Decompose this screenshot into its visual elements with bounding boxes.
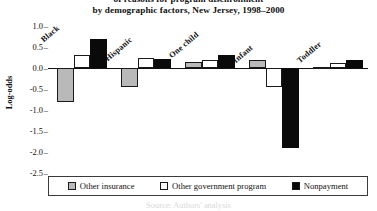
x-axis-category-label: One child	[167, 30, 200, 60]
bar	[90, 39, 107, 68]
bar	[74, 55, 91, 68]
legend-swatch-icon-other-government-program	[160, 182, 168, 190]
y-axis-tick-label: 0.0	[33, 64, 43, 73]
y-axis-tick: 1.0 –	[2, 22, 48, 31]
y-axis-tick: -1.5 –	[2, 127, 48, 136]
y-axis-tick-label: -1.5	[30, 127, 43, 136]
bar	[330, 63, 347, 68]
plot-area: BlackHispanicOne childInfantToddler	[48, 20, 368, 172]
legend-label-other-government-program: Other government program	[172, 181, 266, 191]
bar	[57, 68, 74, 102]
chart-title: of reasons for program disenrollment by …	[0, 0, 377, 16]
x-axis-category-label: Hispanic	[103, 35, 134, 63]
bar	[121, 68, 138, 87]
bar	[266, 68, 283, 87]
y-axis-tick-label: -2.5	[30, 169, 43, 178]
legend-item-other-insurance[interactable]: Other insurance	[68, 181, 135, 191]
legend-item-nonpayment[interactable]: Nonpayment	[292, 181, 348, 191]
bar	[282, 68, 299, 148]
bar	[249, 60, 266, 68]
legend-item-other-government-program[interactable]: Other government program	[160, 181, 266, 191]
y-axis-tick-label: -0.5	[30, 85, 43, 94]
bar	[218, 55, 235, 68]
bar	[154, 59, 171, 68]
y-axis-tick-label: -2.0	[30, 148, 43, 157]
y-axis-tick-label: 1.0	[33, 22, 43, 31]
bar	[185, 62, 202, 68]
bar	[313, 67, 330, 69]
y-axis-tick: -2.5 –	[2, 169, 48, 178]
x-axis-category-label: Toddler	[295, 40, 323, 65]
legend-label-other-insurance: Other insurance	[80, 181, 135, 191]
y-axis-tick: -2.0 –	[2, 148, 48, 157]
bar	[138, 58, 155, 69]
bar	[202, 60, 219, 68]
chart-title-line-2: by demographic factors, New Jersey, 1998…	[0, 5, 377, 16]
bar	[346, 60, 363, 68]
y-axis-tick: 0.5 –	[2, 43, 48, 52]
y-axis-tick-label: -1.0	[30, 106, 43, 115]
legend-swatch-icon-other-insurance	[68, 182, 76, 190]
legend-swatch-icon-nonpayment	[292, 182, 300, 190]
y-axis-label: Log-odds	[5, 63, 14, 123]
chart-legend: Other insurance Other government program…	[48, 176, 368, 196]
legend-label-nonpayment: Nonpayment	[304, 181, 348, 191]
y-axis-tick-label: 0.5	[33, 43, 43, 52]
footer-source-note: Source: Authors' analysis	[0, 201, 377, 210]
